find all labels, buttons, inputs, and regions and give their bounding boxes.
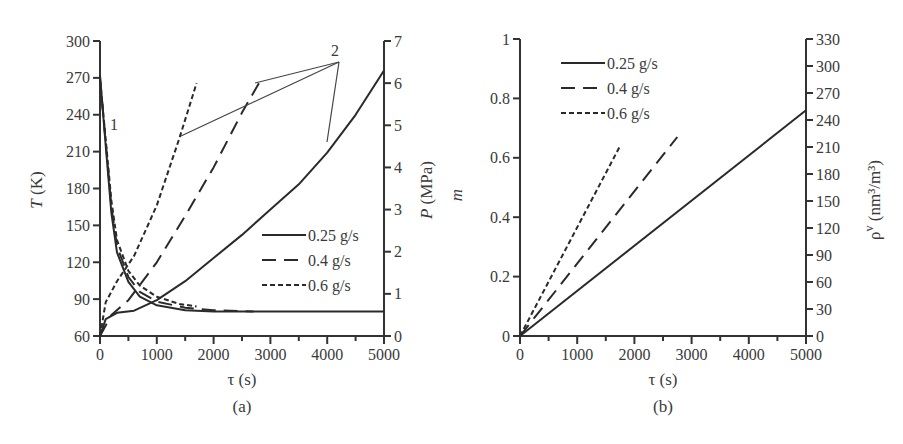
y-axis-right: 0306090120150180210240270300330 bbox=[806, 31, 840, 345]
y-left-tick-label: 240 bbox=[66, 106, 90, 123]
y-left-axis-title-a: T (K) bbox=[27, 171, 46, 208]
x-tick-label: 3000 bbox=[676, 346, 708, 363]
y-right-tick-label: 180 bbox=[816, 166, 840, 183]
series-line-0-4-g-s bbox=[520, 137, 677, 336]
y-left-tick-label: 120 bbox=[66, 254, 90, 271]
legend: 0.25 g/s0.4 g/s0.6 g/s bbox=[262, 227, 359, 295]
x-tick-label: 2000 bbox=[198, 346, 230, 363]
legend-label: 0.25 g/s bbox=[607, 55, 658, 73]
legend-label: 0.6 g/s bbox=[607, 105, 650, 123]
x-axis: 010002000300040005000 bbox=[516, 336, 822, 363]
x-tick-label: 1000 bbox=[141, 346, 173, 363]
legend: 0.25 g/s0.4 g/s0.6 g/s bbox=[561, 55, 658, 123]
y-left-tick-label: 300 bbox=[66, 33, 90, 50]
y-right-tick-label: 240 bbox=[816, 112, 840, 129]
annotation-1: 1 bbox=[110, 116, 118, 133]
y-left-tick-label: 0.8 bbox=[490, 90, 510, 107]
y-left-tick-label: 210 bbox=[66, 143, 90, 160]
y-axis-left: 6090120150180210240270300 bbox=[66, 33, 100, 345]
x-tick-label: 4000 bbox=[733, 346, 765, 363]
annotation-2: 2 bbox=[331, 42, 339, 59]
y-left-tick-label: 60 bbox=[74, 328, 90, 345]
series-line-0-4-g-s bbox=[100, 83, 259, 336]
y-left-axis-title-b: m bbox=[447, 189, 466, 201]
y-right-tick-label: 120 bbox=[816, 220, 840, 237]
legend-label: 0.4 g/s bbox=[607, 80, 650, 98]
series-line-0-6-g-s bbox=[100, 80, 197, 306]
y-axis-left: 00.20.40.60.81 bbox=[490, 31, 520, 345]
y-left-tick-label: 0 bbox=[502, 328, 510, 345]
y-left-tick-label: 0.4 bbox=[490, 209, 510, 226]
y-right-tick-label: 90 bbox=[816, 247, 832, 264]
y-axis-right: 01234567 bbox=[384, 33, 402, 345]
axes-frame bbox=[520, 39, 806, 336]
panel-caption-b: (b) bbox=[653, 397, 673, 416]
y-left-tick-label: 0.2 bbox=[490, 268, 510, 285]
panel-caption-a: (a) bbox=[233, 397, 252, 416]
series-line-0-6-g-s bbox=[520, 146, 620, 336]
y-left-tick-label: 1 bbox=[502, 31, 510, 48]
x-tick-label: 4000 bbox=[311, 346, 343, 363]
x-tick-label: 0 bbox=[516, 346, 524, 363]
y-right-tick-label: 60 bbox=[816, 274, 832, 291]
y-right-tick-label: 210 bbox=[816, 139, 840, 156]
series-line-0-25-g-s bbox=[100, 71, 384, 337]
y-left-tick-label: 270 bbox=[66, 69, 90, 86]
chart-panel-b: 01000200030004000500000.20.40.60.8103060… bbox=[490, 31, 840, 364]
y-right-tick-label: 270 bbox=[816, 85, 840, 102]
x-tick-label: 2000 bbox=[618, 346, 650, 363]
x-axis-title-b: τ (s) bbox=[648, 370, 677, 389]
legend-label: 0.4 g/s bbox=[308, 252, 351, 270]
series-line-0-25-g-s bbox=[520, 110, 806, 336]
legend-label: 0.6 g/s bbox=[308, 277, 351, 295]
y-left-tick-label: 0.6 bbox=[490, 149, 510, 166]
x-tick-label: 1000 bbox=[561, 346, 593, 363]
x-tick-label: 3000 bbox=[254, 346, 286, 363]
x-axis-title-a: τ (s) bbox=[227, 370, 256, 389]
y-right-tick-label: 3 bbox=[394, 201, 402, 218]
y-right-tick-label: 7 bbox=[394, 33, 402, 50]
y-right-tick-label: 30 bbox=[816, 301, 832, 318]
y-right-tick-label: 5 bbox=[394, 117, 402, 134]
chart-panel-a: 0100020003000400050006090120150180210240… bbox=[66, 33, 402, 364]
y-left-tick-label: 180 bbox=[66, 180, 90, 197]
annotation-2-leaders bbox=[181, 62, 339, 142]
y-right-tick-label: 150 bbox=[816, 193, 840, 210]
x-axis: 010002000300040005000 bbox=[96, 336, 400, 363]
y-right-tick-label: 4 bbox=[394, 159, 402, 176]
figure-canvas: 0100020003000400050006090120150180210240… bbox=[0, 0, 903, 444]
y-right-tick-label: 330 bbox=[816, 31, 840, 48]
y-right-tick-label: 0 bbox=[394, 328, 402, 345]
y-right-tick-label: 300 bbox=[816, 58, 840, 75]
x-tick-label: 5000 bbox=[790, 346, 822, 363]
series-group bbox=[100, 71, 384, 337]
x-tick-label: 5000 bbox=[368, 346, 400, 363]
y-right-tick-label: 0 bbox=[816, 328, 824, 345]
y-left-tick-label: 90 bbox=[74, 291, 90, 308]
y-right-axis-title-b: ρv (nm³/m³) bbox=[862, 160, 884, 240]
legend-label: 0.25 g/s bbox=[308, 227, 359, 245]
y-right-axis-title-a: P (MPa) bbox=[417, 161, 436, 220]
y-right-tick-label: 2 bbox=[394, 243, 402, 260]
x-tick-label: 0 bbox=[96, 346, 104, 363]
series-group bbox=[520, 110, 806, 336]
y-right-tick-label: 6 bbox=[394, 75, 402, 92]
y-left-tick-label: 150 bbox=[66, 217, 90, 234]
y-right-tick-label: 1 bbox=[394, 285, 402, 302]
